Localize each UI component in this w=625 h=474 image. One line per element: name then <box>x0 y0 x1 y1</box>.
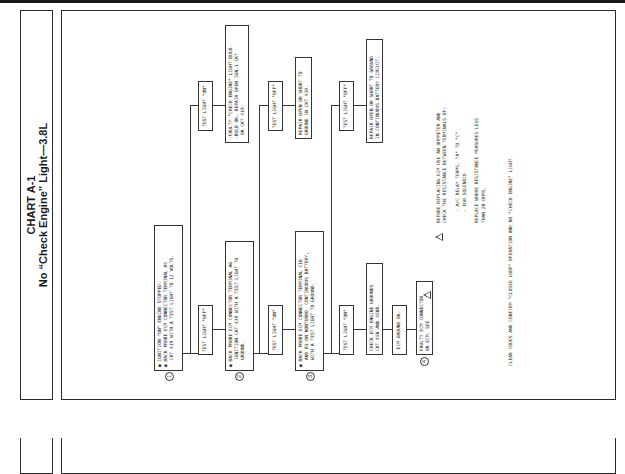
connector-s2-off <box>259 105 268 106</box>
connector-r2on-s3 <box>283 329 295 330</box>
connector-s3-trunk <box>324 353 331 354</box>
ground-ok-box: ECM GROUND OK. <box>392 305 407 355</box>
connector-s1-trunk <box>183 353 190 354</box>
step-4-marker: 4 <box>420 357 429 366</box>
connector-r3off-fix <box>354 105 366 106</box>
connector-ground-ok <box>383 329 392 330</box>
fix-2-line-2: GROUND IN CKT 439. <box>304 61 310 135</box>
step-2-line-3: GROUND. <box>240 245 246 367</box>
result-2-off-fix: REPAIR OPEN OR SHORT TO GROUND IN CKT 43… <box>295 57 312 139</box>
connector-r1off-s2 <box>213 329 225 330</box>
fix-3-line-2: IN CONTINUOUS BATTERY CIRCUIT. <box>375 43 381 139</box>
step-2-marker: 2 <box>235 372 244 381</box>
warning-icon-step4 <box>423 291 431 299</box>
step-1-marker: 1 <box>165 372 174 381</box>
warning-icon <box>435 233 443 241</box>
connector-r2off-fix <box>283 105 295 106</box>
connector-r3on-ground <box>354 329 366 330</box>
ground-check-line-2: CKT 450 AND 450B. <box>375 267 381 351</box>
ohmmeter-note: BEFORE REPLACING ECM USE AN OHMMETER AND… <box>436 107 487 223</box>
step-2-box: BACK PROBE ECM CONNECTOR TERMINAL A6 IGN… <box>225 241 254 371</box>
final-note: CLEAR CODES AND CONFIRM "CLOSED LOOP" OP… <box>508 156 514 366</box>
ground-check-box: CHECK ECM ENGINE GROUNDS CKT 450 AND 450… <box>366 263 383 355</box>
connector-s3-on <box>331 353 339 354</box>
connector-s1-off <box>190 353 198 354</box>
step-1-box: IGNITION "ON" ENGINE STOPPED. BACK PROBE… <box>154 225 183 371</box>
next-diagram-frame <box>61 438 616 474</box>
connector-s1-on <box>190 105 198 106</box>
connector-s1-bar <box>190 105 191 354</box>
connector-s3-off <box>331 105 339 106</box>
chart-id: CHART A-1 <box>25 11 37 399</box>
connector-r1on-fix <box>213 105 225 106</box>
connector-step4 <box>407 329 416 330</box>
result-3-off: TEST LIGHT "OFF" <box>339 81 354 131</box>
fix-1-line-3: OR CKT 419. <box>240 29 246 139</box>
title-frame: CHART A-1 No “Check Engine” Light—3.8L <box>20 10 53 400</box>
connector-s3-bar <box>331 105 332 354</box>
result-2-off: TEST LIGHT "OFF" <box>268 81 283 131</box>
result-3-off-fix: REPAIR OPEN OR SHORT TO GROUND IN CONTIN… <box>366 39 383 143</box>
chart-title: No “Check Engine” Light—3.8L <box>37 11 49 399</box>
result-1-on: TEST LIGHT "ON" <box>198 81 213 131</box>
step-3-line-3: WITH A TEST LIGHT TO GROUND. <box>310 235 316 367</box>
step-3-box: BACK PROBE ECM CONNECTOR TERMINAL C16 AN… <box>295 231 324 371</box>
result-3-on: TEST LIGHT "ON" <box>339 305 354 355</box>
connector-s2-on <box>259 353 268 354</box>
step-1-line-3: CKT 419 WITH A TEST LIGHT TO 12 VOLTS. <box>169 229 175 367</box>
result-1-off: TEST LIGHT "OFF" <box>198 305 213 355</box>
result-1-on-fix: -FAULTY "CHECK ENGINE" LIGHT BULB. -BULB… <box>225 25 249 143</box>
step-3-marker: 3 <box>306 372 315 381</box>
next-title-frame <box>20 438 53 474</box>
result-2-on: TEST LIGHT "ON" <box>268 305 283 355</box>
connector-s2-bar <box>259 105 260 354</box>
